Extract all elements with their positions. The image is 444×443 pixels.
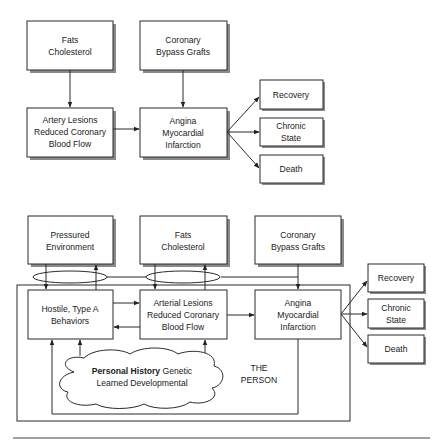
top-recovery-label: Recovery <box>273 90 310 100</box>
pressured-line1: Pressured <box>50 230 89 240</box>
top-angina-line2: Myocardial <box>162 128 204 138</box>
top-death-box: Death <box>260 155 325 185</box>
top-recovery-box: Recovery <box>260 80 325 111</box>
top-bypass-line2: Bypass Grafts <box>156 47 210 57</box>
pressured-line2: Environment <box>46 242 95 252</box>
bottom-recovery-label: Recovery <box>378 273 415 283</box>
top-angina-line3: Infarction <box>165 140 201 150</box>
top-diagram: Fats Cholesterol Coronary Bypass Grafts … <box>27 21 325 185</box>
arrow-angina-to-death <box>227 132 259 168</box>
bottom-angina-line3: Infarction <box>280 322 316 332</box>
top-chronic-line1: Chronic <box>276 121 306 131</box>
top-angina-line1: Angina <box>170 116 197 126</box>
top-lesions-line2: Reduced Coronary <box>34 127 107 137</box>
hostile-box: Hostile, Type A Behaviors <box>28 290 113 339</box>
the-person-line1: THE <box>250 363 267 373</box>
top-fats-line2: Cholesterol <box>48 47 92 57</box>
top-chronic-line2: State <box>281 133 301 143</box>
bottom-recovery-box: Recovery <box>368 264 426 294</box>
bottom-chronic-line1: Chronic <box>381 303 411 313</box>
top-lesions-line1: Artery Lesions <box>43 115 98 125</box>
bottom-death-label: Death <box>385 344 408 354</box>
bottom-lesions-line1: Arterial Lesions <box>153 298 212 308</box>
personal-history-genetic: Genetic <box>160 366 193 376</box>
personal-history-line2: Learned Developmental <box>96 378 187 388</box>
diagram-canvas: Fats Cholesterol Coronary Bypass Grafts … <box>0 0 444 443</box>
bottom-angina-line2: Myocardial <box>277 310 319 320</box>
arrow-to-recovery-bottom <box>341 281 367 314</box>
the-person-line2: PERSON <box>241 375 277 385</box>
hostile-line1: Hostile, Type A <box>41 304 98 314</box>
bottom-diagram: Pressured Environment Fats Cholesterol C… <box>17 216 426 421</box>
top-death-label: Death <box>280 164 303 174</box>
bottom-lesions-line3: Blood Flow <box>162 322 205 332</box>
bottom-angina-box: Angina Myocardial Infarction <box>255 290 341 339</box>
bottom-chronic-box: Chronic State <box>368 299 426 330</box>
top-bypass-box: Coronary Bypass Grafts <box>140 21 230 73</box>
top-angina-box: Angina Myocardial Infarction <box>140 108 230 160</box>
bottom-fats-line1: Fats <box>175 230 192 240</box>
bottom-bypass-line2: Bypass Grafts <box>271 242 325 252</box>
arrow-to-death-bottom <box>341 314 367 347</box>
top-lesions-box: Artery Lesions Reduced Coronary Blood Fl… <box>27 108 116 160</box>
bottom-bypass-line1: Coronary <box>280 230 316 240</box>
top-bypass-line1: Coronary <box>165 35 201 45</box>
personal-history-line1: Personal History Genetic <box>92 366 193 376</box>
top-fats-box: Fats Cholesterol <box>27 21 116 73</box>
top-chronic-box: Chronic State <box>260 118 325 148</box>
hostile-line2: Behaviors <box>51 316 89 326</box>
bottom-lesions-box: Arterial Lesions Reduced Coronary Blood … <box>140 290 227 339</box>
bottom-bypass-box: Coronary Bypass Grafts <box>255 216 344 267</box>
bottom-angina-line1: Angina <box>285 298 312 308</box>
bottom-lesions-line2: Reduced Coronary <box>147 310 220 320</box>
arrow-angina-to-recovery <box>227 97 259 132</box>
bottom-fats-line2: Cholesterol <box>161 242 205 252</box>
bottom-death-box: Death <box>368 335 426 365</box>
bottom-fats-box: Fats Cholesterol <box>140 216 230 267</box>
bottom-pressured-box: Pressured Environment <box>28 216 116 267</box>
bottom-chronic-line2: State <box>386 315 406 325</box>
top-fats-line1: Fats <box>62 35 79 45</box>
personal-history-bold: Personal History <box>92 366 161 376</box>
interaction-ellipse-2 <box>146 271 220 283</box>
top-lesions-line3: Blood Flow <box>49 139 92 149</box>
